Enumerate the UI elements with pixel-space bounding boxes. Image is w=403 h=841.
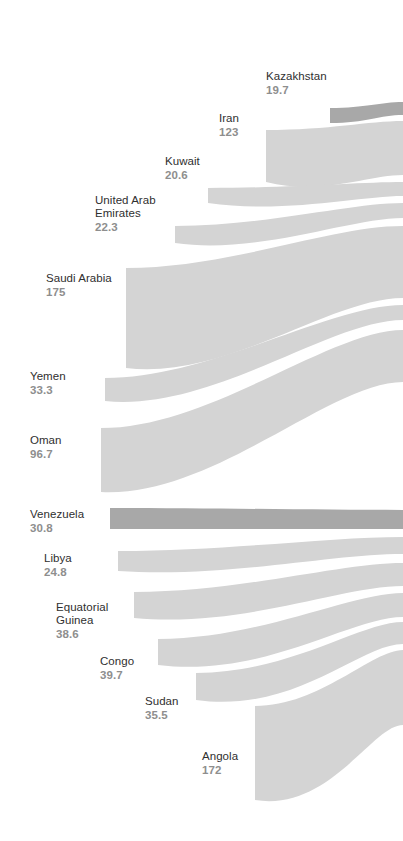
node-label-kuwait: Kuwait20.6 — [165, 155, 200, 182]
node-value-libya: 24.8 — [44, 566, 72, 579]
node-name-sudan: Sudan — [145, 695, 179, 708]
node-name-venezuela: Venezuela — [30, 508, 84, 521]
node-label-saudi-arabia: Saudi Arabia175 — [46, 272, 112, 299]
node-name-oman: Oman — [30, 434, 62, 447]
node-name-kazakhstan: Kazakhstan — [266, 70, 327, 83]
node-value-equatorial-guinea: 38.6 — [56, 628, 108, 641]
node-label-yemen: Yemen33.3 — [30, 370, 66, 397]
flow-diagram-canvas: Kazakhstan19.7Iran123Kuwait20.6United Ar… — [0, 0, 403, 841]
node-value-saudi-arabia: 175 — [46, 286, 112, 299]
node-value-venezuela: 30.8 — [30, 522, 84, 535]
node-label-congo: Congo39.7 — [100, 655, 134, 682]
node-name-kuwait: Kuwait — [165, 155, 200, 168]
node-label-sudan: Sudan35.5 — [145, 695, 179, 722]
node-label-venezuela: Venezuela30.8 — [30, 508, 84, 535]
node-name-congo: Congo — [100, 655, 134, 668]
node-label-angola: Angola172 — [202, 750, 238, 777]
node-label-libya: Libya24.8 — [44, 552, 72, 579]
node-value-uae: 22.3 — [95, 221, 156, 234]
node-name-saudi-arabia: Saudi Arabia — [46, 272, 112, 285]
node-label-equatorial-guinea: Equatorial Guinea38.6 — [56, 601, 108, 642]
node-value-kazakhstan: 19.7 — [266, 84, 327, 97]
node-value-angola: 172 — [202, 764, 238, 777]
node-value-congo: 39.7 — [100, 669, 134, 682]
node-label-iran: Iran123 — [219, 112, 239, 139]
node-name-iran: Iran — [219, 112, 239, 125]
node-value-sudan: 35.5 — [145, 709, 179, 722]
node-value-oman: 96.7 — [30, 448, 62, 461]
node-value-iran: 123 — [219, 126, 239, 139]
node-value-yemen: 33.3 — [30, 384, 66, 397]
node-name-uae: United Arab Emirates — [95, 194, 156, 221]
node-name-yemen: Yemen — [30, 370, 66, 383]
node-label-layer: Kazakhstan19.7Iran123Kuwait20.6United Ar… — [0, 0, 403, 841]
node-name-equatorial-guinea: Equatorial Guinea — [56, 601, 108, 628]
node-name-angola: Angola — [202, 750, 238, 763]
node-label-uae: United Arab Emirates22.3 — [95, 194, 156, 235]
node-name-libya: Libya — [44, 552, 72, 565]
node-label-kazakhstan: Kazakhstan19.7 — [266, 70, 327, 97]
node-value-kuwait: 20.6 — [165, 169, 200, 182]
node-label-oman: Oman96.7 — [30, 434, 62, 461]
